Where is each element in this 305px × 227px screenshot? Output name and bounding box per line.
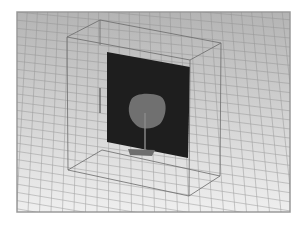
radiating-patch — [129, 94, 166, 129]
antenna-3d-scene — [0, 0, 305, 227]
ground-strip — [128, 149, 155, 156]
